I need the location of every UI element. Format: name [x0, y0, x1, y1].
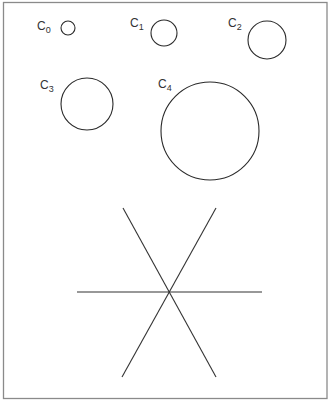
circles-group: C0C1C2C3C4 — [37, 16, 286, 180]
circle-label-c0: C0 — [37, 19, 51, 35]
star-asterisk — [77, 208, 262, 377]
circle-c1 — [151, 20, 177, 46]
circle-c4 — [161, 82, 259, 180]
circle-c2 — [248, 21, 286, 59]
circle-c3 — [61, 78, 113, 130]
circle-c0 — [61, 21, 75, 35]
circle-label-c4: C4 — [158, 77, 172, 93]
diagram-frame — [4, 3, 328, 399]
circle-label-c1: C1 — [130, 16, 144, 32]
diagram-canvas: C0C1C2C3C4 — [0, 0, 330, 401]
circle-label-c2: C2 — [228, 16, 242, 32]
circle-label-c3: C3 — [40, 78, 54, 94]
